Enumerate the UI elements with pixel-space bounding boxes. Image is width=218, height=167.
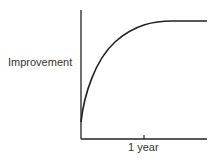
y-axis-label: Improvement (8, 56, 72, 68)
x-tick-label: 1 year (128, 141, 159, 153)
improvement-curve-chart (0, 0, 218, 167)
improvement-curve (81, 21, 207, 122)
